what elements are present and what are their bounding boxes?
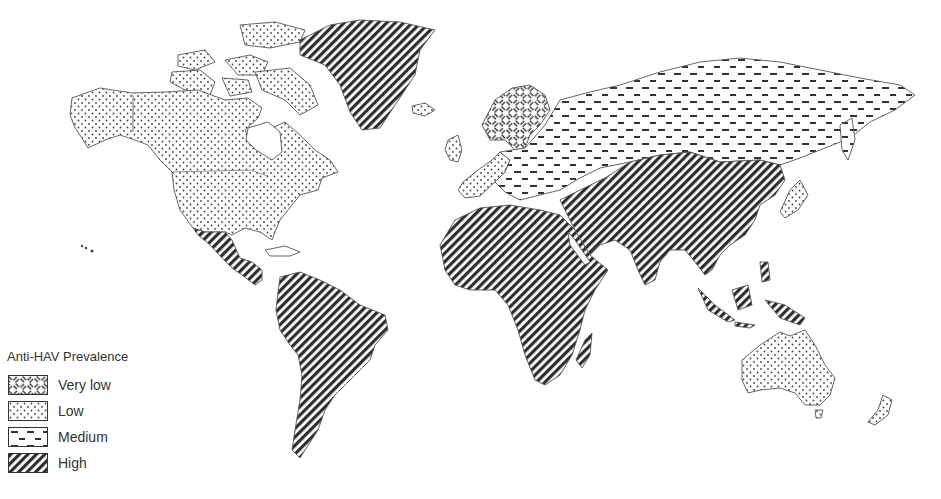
region-caribbean: [265, 246, 300, 256]
dots-pattern-swatch: [8, 401, 48, 421]
region-tasmania: [815, 410, 823, 418]
legend-label: Very low: [58, 377, 111, 393]
region-uk: [445, 135, 462, 162]
legend-item-high: High: [8, 450, 128, 476]
region-australia: [742, 330, 835, 405]
region-new-zealand: [868, 395, 892, 425]
legend-item-very-low: Very low: [8, 372, 128, 398]
dashes-pattern-swatch: [8, 427, 48, 447]
legend-label: Low: [58, 403, 84, 419]
region-hawaii: [81, 245, 94, 253]
legend-label: High: [58, 455, 87, 471]
legend-item-medium: Medium: [8, 424, 128, 450]
diagonal-hatch-pattern-swatch: [8, 453, 48, 473]
legend-title: Anti-HAV Prevalence: [7, 349, 128, 364]
legend-label: Medium: [58, 429, 108, 445]
region-japan: [780, 180, 808, 218]
region-mexico-central-america: [193, 228, 262, 285]
world-map: [0, 0, 941, 499]
basketweave-pattern-swatch: [8, 375, 48, 395]
region-kamchatka: [840, 118, 855, 160]
map-legend: Anti-HAV Prevalence Very low Low Medium …: [5, 349, 128, 476]
region-madagascar: [576, 333, 592, 368]
region-iceland: [412, 103, 435, 116]
legend-item-low: Low: [8, 398, 128, 424]
region-south-america: [276, 272, 388, 458]
region-southeast-asia-islands: [698, 262, 805, 328]
